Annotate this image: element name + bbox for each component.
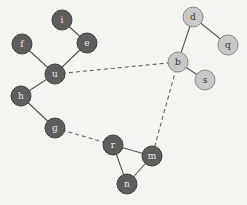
nodes-layer: ifeuhgrmndqbs bbox=[11, 7, 238, 194]
node-label: d bbox=[190, 12, 196, 22]
node-s: s bbox=[195, 70, 215, 90]
node-f: f bbox=[12, 34, 32, 54]
node-label: h bbox=[18, 91, 24, 101]
node-r: r bbox=[103, 135, 123, 155]
edges-layer bbox=[21, 17, 228, 184]
node-label: s bbox=[203, 75, 208, 85]
node-label: r bbox=[111, 140, 116, 150]
node-label: q bbox=[225, 40, 231, 50]
node-label: e bbox=[84, 38, 89, 48]
edge-b-m bbox=[152, 62, 178, 156]
node-n: n bbox=[117, 174, 137, 194]
node-m: m bbox=[142, 146, 162, 166]
node-g: g bbox=[45, 118, 65, 138]
node-i: i bbox=[52, 10, 72, 30]
node-b: b bbox=[168, 52, 188, 72]
node-d: d bbox=[183, 7, 203, 27]
node-label: g bbox=[52, 123, 58, 133]
node-label: m bbox=[148, 151, 157, 161]
node-e: e bbox=[77, 33, 97, 53]
node-label: u bbox=[52, 69, 58, 79]
node-label: b bbox=[175, 57, 181, 67]
node-label: i bbox=[61, 15, 64, 25]
edge-u-b bbox=[55, 62, 178, 74]
node-label: n bbox=[124, 179, 130, 189]
node-u: u bbox=[45, 64, 65, 84]
graph-diagram: ifeuhgrmndqbs bbox=[0, 0, 247, 205]
node-q: q bbox=[218, 35, 238, 55]
node-h: h bbox=[11, 86, 31, 106]
